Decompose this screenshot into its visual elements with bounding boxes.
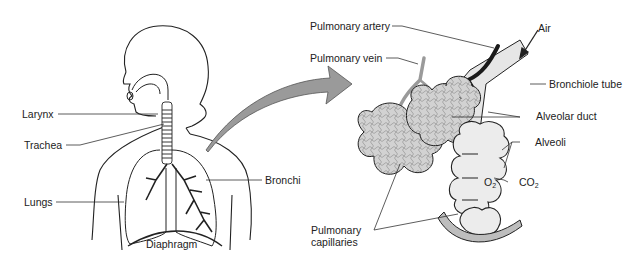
trachea-rings: [162, 102, 172, 164]
o2-main: O: [484, 176, 492, 188]
co2-main: CO: [519, 176, 535, 188]
label-pulmonary-capillaries: Pulmonary capillaries: [311, 224, 361, 248]
label-pulmonary-vein: Pulmonary vein: [310, 52, 382, 64]
alveoli-cluster: [449, 122, 509, 236]
o2-subscript: 2: [492, 182, 496, 189]
label-co2: CO2: [519, 176, 539, 192]
pulmonary-capillaries-line2: capillaries: [311, 236, 361, 248]
label-air: Air: [538, 22, 551, 34]
diagram-artwork: [0, 0, 629, 262]
label-bronchiole-tube: Bronchiole tube: [549, 78, 622, 90]
pulmonary-capillaries-line1: Pulmonary: [311, 224, 361, 236]
label-bronchi: Bronchi: [265, 174, 301, 186]
label-alveoli: Alveoli: [535, 136, 566, 148]
label-o2: O2: [484, 176, 496, 192]
bronchi-tree: [146, 164, 212, 232]
co2-subscript: 2: [535, 182, 539, 189]
label-trachea: Trachea: [24, 139, 62, 151]
label-pulmonary-artery: Pulmonary artery: [310, 20, 390, 32]
label-diaphragm: Diaphragm: [146, 238, 197, 250]
label-lungs: Lungs: [24, 196, 53, 208]
respiratory-diagram: Larynx Trachea Lungs Bronchi Diaphragm P…: [0, 0, 629, 262]
label-larynx: Larynx: [22, 108, 54, 120]
magnify-arrow-icon: [206, 66, 352, 152]
label-alveolar-duct: Alveolar duct: [536, 110, 597, 122]
nasal-cavity: [127, 74, 168, 100]
